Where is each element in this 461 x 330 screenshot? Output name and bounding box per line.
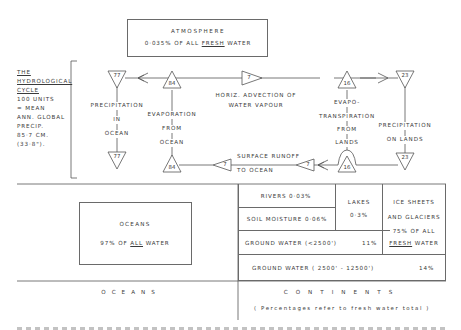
precip-ocean-label-1: PRECIPITATION — [90, 102, 143, 110]
advection-label-1: HORIZ. ADVECTION OF — [216, 93, 297, 99]
ground-deep-label: GROUND WATER ( 2500' - 12500') — [252, 266, 374, 272]
rivers-cell: RIVERS 0·03% — [261, 194, 312, 200]
precip-ocean-top-value: 77 — [114, 73, 121, 78]
advection-value: 7 — [247, 75, 250, 80]
lakes-value: 0·3% — [350, 213, 368, 219]
oceans-box — [79, 202, 192, 265]
ice-line-2: AND GLACIERS — [388, 215, 441, 221]
divider — [335, 184, 336, 230]
atmosphere-box — [127, 19, 268, 57]
runoff-left-value: 7 — [223, 162, 226, 167]
ground-shallow-label: GROUND WATER (<2500') — [245, 241, 337, 247]
evap-ocean-label-1: EVAPORATION — [147, 111, 196, 119]
precip-lands-label-1: PRECIPITATION — [378, 122, 431, 130]
ice-line-4: FRESH WATER — [389, 241, 439, 247]
advection-label-2: WATER VAPOUR — [228, 103, 283, 109]
evap-ocean-label-3: OCEAN — [160, 139, 184, 147]
evap-ocean-top-value: 84 — [169, 81, 176, 86]
ground-deep-value: 14% — [419, 266, 434, 272]
runoff-label-2: TO OCEAN — [237, 168, 274, 174]
evap-ocean-bottom-value: 84 — [169, 165, 176, 170]
precip-lands-label-2: ON LANDS — [387, 136, 424, 144]
footer-note: ( Percentages refer to fresh water total… — [254, 306, 430, 311]
ground-shallow-value: 11% — [362, 241, 377, 247]
precip-lands-bottom-value: 23 — [402, 155, 409, 160]
divider — [382, 184, 383, 254]
evapotranspiration-label-2: TRANSPIRATION — [319, 113, 375, 121]
ice-line-3: 75% OF ALL — [393, 229, 436, 235]
evapotranspiration-label-1: EVAPO- — [334, 99, 360, 107]
footer-oceans: OCEANS — [101, 290, 160, 296]
evap-ocean-label-2: FROM — [162, 125, 182, 133]
precip-ocean-label-3: OCEAN — [105, 130, 129, 138]
evapotranspiration-label-3: FROM — [337, 126, 357, 134]
oceans-subtitle: 97% OF ALL WATER — [100, 241, 169, 247]
runoff-right-value: 7 — [306, 162, 309, 167]
soil-moisture-cell: SOIL MOISTURE 0·06% — [247, 217, 328, 223]
evapotranspiration-bottom-value: 16 — [344, 165, 351, 170]
evapotranspiration-top-value: 16 — [344, 81, 351, 86]
oceans-title: OCEANS — [119, 222, 150, 228]
divider — [238, 207, 335, 208]
evapotranspiration-label-4: LANDS — [335, 139, 359, 147]
atmosphere-subtitle: 0·035% OF ALL FRESH WATER — [145, 41, 252, 47]
lakes-label: LAKES — [348, 200, 370, 206]
divider — [238, 254, 446, 255]
atmosphere-title: ATMOSPHERE — [171, 29, 225, 35]
ice-line-1: ICE SHEETS — [393, 200, 435, 206]
footer-continents: CONTINENTS — [284, 290, 400, 296]
divider — [238, 230, 390, 231]
precip-ocean-bottom-value: 77 — [114, 154, 121, 159]
runoff-label-1: SURFACE RUNOFF — [237, 154, 300, 160]
precip-ocean-label-2: IN — [113, 116, 121, 124]
precip-lands-top-value: 23 — [402, 73, 409, 78]
